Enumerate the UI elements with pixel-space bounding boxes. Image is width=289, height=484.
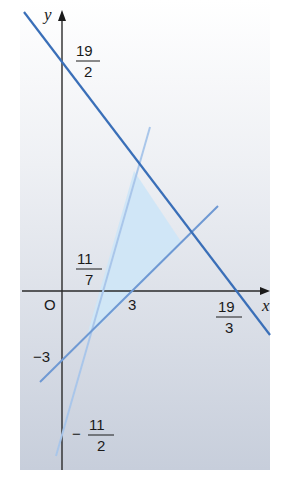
label-19-over-2-num: 19 <box>76 42 93 59</box>
y-axis-label: y <box>42 5 52 24</box>
label-19-over-3-den: 3 <box>225 319 233 336</box>
label-19-over-3-num: 19 <box>218 298 235 315</box>
label-11-over-7-den: 7 <box>85 271 93 288</box>
x-axis-label: x <box>261 296 270 315</box>
label-3: 3 <box>128 296 136 313</box>
label-minus-3: −3 <box>33 348 50 365</box>
lp-diagram: y x O 19 2 11 7 3 19 3 −3 − 11 2 <box>0 0 289 484</box>
label-19-over-2-den: 2 <box>84 63 92 80</box>
label-11-over-2-num: 11 <box>89 416 105 433</box>
label-11-over-2-den: 2 <box>97 437 105 454</box>
label-11-over-7-num: 11 <box>77 250 93 267</box>
label-minus-sign: − <box>72 425 81 442</box>
origin-label: O <box>44 296 56 313</box>
